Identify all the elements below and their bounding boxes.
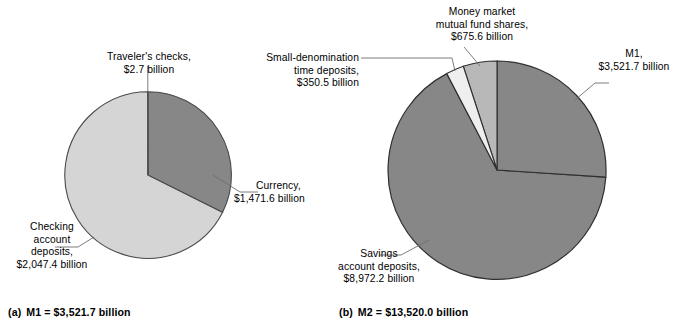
label-currency: Currency, $1,471.6 billion (256, 180, 346, 205)
caption-panel-b-tag: (b) (339, 306, 353, 318)
label-travelers-checks: Traveler's checks, $2.7 billion (94, 51, 204, 76)
label-m1: M1, $3,521.7 billion (591, 48, 677, 73)
leader-line-money-market (464, 47, 480, 66)
label-money-market-line-3: $675.6 billion (413, 31, 551, 44)
label-savings-line-3: $8,972.2 billion (315, 273, 443, 286)
label-savings-account-deposits: Savings account deposits, $8,972.2 billi… (315, 248, 443, 286)
label-travelers-checks-line-2: $2.7 billion (94, 64, 204, 77)
label-small-denomination-line-3: $350.5 billion (259, 77, 359, 90)
label-small-denomination-line-1: Small-denomination (259, 52, 359, 65)
panel-a-m1: Traveler's checks, $2.7 billion Currency… (0, 0, 338, 330)
label-savings-line-1: Savings (315, 248, 443, 261)
panel-b-m2: Money market mutual fund shares, $675.6 … (339, 0, 677, 330)
label-money-market-line-2: mutual fund shares, (413, 19, 551, 32)
label-money-market-line-1: Money market (413, 6, 551, 19)
caption-panel-b-text: M2 = $13,520.0 billion (358, 306, 468, 318)
pie-slice-m1 (497, 61, 606, 177)
label-currency-line-1: Currency, (256, 180, 346, 193)
label-m1-line-2: $3,521.7 billion (591, 61, 677, 74)
label-money-market-mutual-fund-shares: Money market mutual fund shares, $675.6 … (413, 6, 551, 44)
label-checking-line-1: Checking (0, 221, 116, 234)
pie-chart-m1 (0, 0, 338, 330)
leader-line-m1 (575, 83, 609, 100)
caption-panel-a-text: M1 = $3,521.7 billion (26, 306, 130, 318)
label-checking-account-deposits: Checking account deposits, $2,047.4 bill… (0, 221, 116, 271)
label-small-denomination-time-deposits: Small-denomination time deposits, $350.5… (259, 52, 359, 90)
leader-line-small-denomination (361, 58, 455, 71)
label-travelers-checks-line-1: Traveler's checks, (94, 51, 204, 64)
caption-panel-b: (b)M2 = $13,520.0 billion (339, 306, 468, 318)
label-savings-line-2: account deposits, (315, 261, 443, 274)
label-m1-line-1: M1, (591, 48, 677, 61)
caption-panel-a-tag: (a) (8, 306, 21, 318)
caption-panel-a: (a)M1 = $3,521.7 billion (8, 306, 131, 318)
label-checking-line-2: account (0, 234, 116, 247)
label-currency-line-2: $1,471.6 billion (234, 193, 346, 206)
label-checking-line-3: deposits, (0, 246, 116, 259)
label-small-denomination-line-2: time deposits, (259, 65, 359, 78)
label-checking-line-4: $2,047.4 billion (0, 259, 116, 272)
money-supply-pie-figure: Traveler's checks, $2.7 billion Currency… (0, 0, 677, 330)
